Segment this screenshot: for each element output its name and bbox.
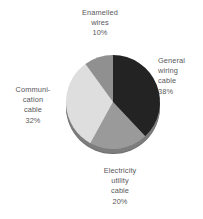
- pie-label-line: cable: [158, 76, 203, 86]
- pie-label-line: General: [158, 56, 203, 66]
- pie-label-line: Electricity: [83, 166, 157, 176]
- pie-label-line: cable: [83, 186, 157, 196]
- pie-label-value: 10%: [52, 28, 148, 38]
- pie-label-line: wiring: [158, 66, 203, 76]
- pie-label-value: 32%: [2, 116, 64, 126]
- pie-label-communication-cable: Communi- cation cable 32%: [2, 85, 64, 126]
- pie-label-line: wires: [52, 18, 148, 28]
- pie-label-line: cable: [2, 105, 64, 115]
- pie-label-value: 38%: [158, 87, 203, 97]
- pie-label-value: 20%: [83, 197, 157, 207]
- pie-chart: Enamelled wires 10% General wiring cable…: [0, 0, 203, 219]
- pie-label-line: utility: [83, 176, 157, 186]
- pie-label-general-wiring-cable: General wiring cable 38%: [158, 56, 203, 97]
- pie-label-line: Communi-: [2, 85, 64, 95]
- pie-label-electricity-utility-cable: Electricity utility cable 20%: [83, 166, 157, 207]
- pie-label-line: cation: [2, 95, 64, 105]
- pie-label-line: Enamelled: [52, 8, 148, 18]
- pie-label-enamelled-wires: Enamelled wires 10%: [52, 8, 148, 39]
